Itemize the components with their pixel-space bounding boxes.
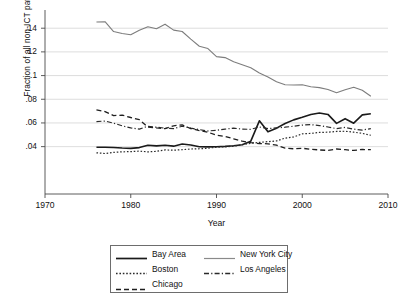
chart-figure: Fraction of all non-ICT patents in locat… [0, 0, 398, 299]
legend-swatch-icon [115, 269, 148, 278]
legend-label: Boston [152, 264, 178, 274]
series-group [96, 22, 370, 154]
x-tick-label-2: 1990 [197, 200, 237, 210]
x-tick-label-4: 2010 [368, 200, 398, 210]
legend-swatch-icon [115, 254, 148, 263]
legend: Bay AreaNew York CityBostonLos AngelesCh… [110, 245, 288, 293]
y-tick-label-5: .14 [11, 23, 37, 33]
y-tick-label-1: .06 [11, 117, 37, 127]
x-tick-label-3: 2000 [282, 200, 322, 210]
series-line-bay-area [96, 113, 370, 148]
legend-item-chicago[interactable]: Chicago [111, 279, 199, 289]
x-tick-label-0: 1970 [25, 200, 65, 210]
y-tick-label-4: .12 [11, 46, 37, 56]
legend-swatch [115, 280, 148, 289]
legend-label: New York City [240, 249, 292, 259]
x-axis-label: Year [177, 218, 257, 228]
legend-swatch-icon [115, 285, 148, 294]
legend-swatch-icon [203, 269, 236, 278]
series-line-new-york-city [96, 22, 370, 97]
axes [41, 10, 388, 198]
gridlines [45, 28, 388, 146]
legend-item-boston[interactable]: Boston [111, 264, 199, 274]
legend-label: Chicago [152, 279, 183, 289]
legend-item-los-angeles[interactable]: Los Angeles [199, 264, 289, 274]
legend-label: Los Angeles [240, 264, 286, 274]
x-tick-label-1: 1980 [111, 200, 151, 210]
legend-swatch [115, 249, 148, 258]
legend-swatch [115, 264, 148, 273]
legend-swatch [203, 249, 236, 258]
y-tick-label-3: .1 [11, 70, 37, 80]
legend-swatch-icon [203, 254, 236, 263]
series-line-los-angeles [96, 121, 370, 131]
legend-item-new-york-city[interactable]: New York City [199, 249, 289, 259]
y-tick-label-0: .04 [11, 141, 37, 151]
legend-label: Bay Area [152, 249, 186, 259]
legend-item-bay-area[interactable]: Bay Area [111, 249, 199, 259]
y-tick-label-2: .08 [11, 94, 37, 104]
legend-swatch [203, 264, 236, 273]
